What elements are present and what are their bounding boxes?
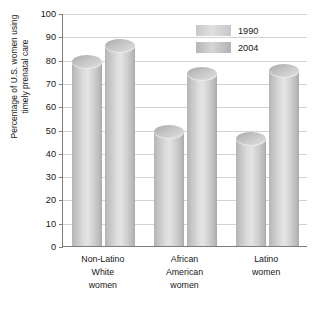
y-axis-tick-label: 10 xyxy=(46,219,56,229)
legend-label-2004: 2004 xyxy=(238,43,258,53)
x-axis-label: African American women xyxy=(139,253,230,292)
bar-body xyxy=(269,71,299,246)
legend-swatch-icon-1990 xyxy=(196,25,231,36)
bar-2004[interactable] xyxy=(269,64,299,246)
legend-swatch-icon-2004 xyxy=(196,42,231,53)
y-axis-title: Percentage of U.S. women using timely pr… xyxy=(9,0,30,182)
bar-body xyxy=(236,139,266,246)
bar-group xyxy=(72,14,135,246)
bar-body xyxy=(187,74,217,246)
y-axis-tick-label: 80 xyxy=(46,56,56,66)
bar-top-rim xyxy=(72,55,102,69)
bar-2004[interactable] xyxy=(105,39,135,246)
bar-body xyxy=(154,132,184,246)
y-axis-tick-label: 0 xyxy=(51,242,56,252)
bar-body xyxy=(105,46,135,246)
y-axis-tick-label: 40 xyxy=(46,149,56,159)
y-axis-tick-label: 20 xyxy=(46,195,56,205)
bar-1990[interactable] xyxy=(154,125,184,246)
y-axis-tick-label: 50 xyxy=(46,126,56,136)
bar-body xyxy=(72,62,102,246)
bar-top-rim xyxy=(105,39,135,53)
x-axis-label: Non-Latino White women xyxy=(57,253,148,292)
plot-area: 0102030405060708090100 xyxy=(62,14,307,247)
x-axis-label: Latino women xyxy=(221,253,312,279)
bar-top-rim xyxy=(187,67,217,81)
bar-1990[interactable] xyxy=(236,132,266,246)
bar-top-rim xyxy=(236,132,266,146)
y-axis-tick-label: 100 xyxy=(41,9,56,19)
bar-2004[interactable] xyxy=(187,67,217,246)
bar-top-rim xyxy=(154,125,184,139)
y-axis-tick xyxy=(59,247,63,248)
legend-label-1990: 1990 xyxy=(238,26,258,36)
legend-item-2004[interactable]: 2004 xyxy=(196,39,258,56)
legend: 1990 2004 xyxy=(196,22,258,56)
bar-top-rim xyxy=(269,64,299,78)
legend-item-1990[interactable]: 1990 xyxy=(196,22,258,39)
y-axis-tick-label: 30 xyxy=(46,172,56,182)
y-axis-tick-label: 90 xyxy=(46,32,56,42)
bar-series-layer xyxy=(63,14,307,246)
bar-1990[interactable] xyxy=(72,55,102,246)
bar-chart: Percentage of U.S. women using timely pr… xyxy=(0,0,314,310)
y-axis-tick-label: 60 xyxy=(46,102,56,112)
y-axis-tick-label: 70 xyxy=(46,79,56,89)
